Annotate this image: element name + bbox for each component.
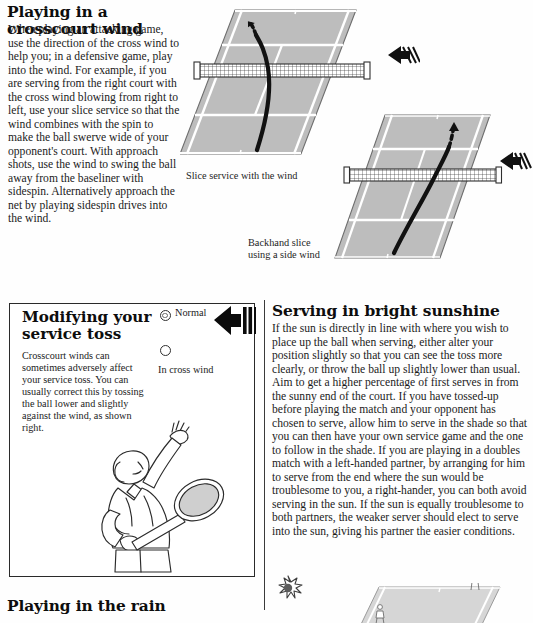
service-toss-heading-line2: service toss bbox=[22, 326, 152, 343]
label-cross-wind-toss: In cross wind bbox=[158, 364, 213, 376]
wind-arrow-icon bbox=[500, 152, 531, 170]
tennis-ball-icon-cross-wind bbox=[160, 345, 171, 356]
wind-arrow-icon bbox=[388, 46, 420, 64]
label-normal-toss: Normal bbox=[175, 307, 206, 319]
net bbox=[344, 167, 502, 183]
tennis-player-serving-illustration bbox=[96, 418, 236, 576]
court-two-caption: Backhand slice using a side wind bbox=[248, 237, 320, 262]
crosscourt-body-text: When playing an attacking game, use the … bbox=[8, 23, 180, 226]
wind-arrow-left-large-icon bbox=[214, 306, 256, 336]
court-diagram-backhand-slice bbox=[330, 110, 533, 280]
court-two-svg bbox=[330, 110, 533, 280]
service-toss-heading-line1: Modifying your bbox=[22, 309, 152, 326]
sunshine-court-diagram bbox=[352, 583, 533, 623]
court-two-caption-line1: Backhand slice bbox=[248, 237, 320, 249]
column-divider bbox=[264, 300, 265, 610]
sun-burst-icon bbox=[271, 572, 305, 604]
page-title-rain: Playing in the rain bbox=[7, 598, 207, 615]
service-toss-heading: Modifying your service toss bbox=[22, 309, 152, 343]
page-title-sunshine: Serving in bright sunshine bbox=[272, 303, 530, 320]
sunshine-body-text: If the sun is directly in line with wher… bbox=[272, 322, 529, 539]
tennis-ball-seam-icon bbox=[162, 313, 167, 318]
court-two-caption-line2: using a side wind bbox=[248, 249, 320, 261]
net bbox=[194, 62, 370, 79]
court-surface bbox=[335, 115, 490, 258]
court-one-caption: Slice service with the wind bbox=[186, 170, 298, 182]
court-surface-bottom bbox=[352, 587, 500, 623]
